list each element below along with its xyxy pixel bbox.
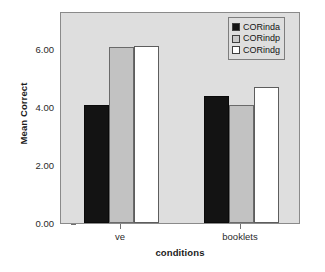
- bar-CORindp-booklets: [229, 105, 254, 223]
- bar-CORinda-booklets: [204, 96, 229, 223]
- bar-CORindg-booklets: [254, 87, 279, 223]
- x-axis-title: conditions: [60, 247, 300, 258]
- bar-CORindg-ve: [134, 46, 159, 223]
- legend-item-CORindg: CORindg: [232, 45, 280, 56]
- bar-chart: Mean Correct 0.002.004.006.00 vebooklets…: [0, 0, 325, 272]
- legend-label: CORindp: [243, 34, 280, 43]
- x-tick-mark: [120, 224, 121, 229]
- x-tick-label: ve: [115, 231, 125, 242]
- legend-item-CORinda: CORinda: [232, 22, 280, 33]
- x-tick-label: booklets: [222, 231, 257, 242]
- legend-swatch-icon: [232, 46, 240, 54]
- y-tick-label: 0.00: [20, 219, 54, 229]
- y-tick-label: 4.00: [20, 103, 54, 113]
- legend: CORindaCORindpCORindg: [228, 17, 285, 60]
- legend-swatch-icon: [232, 23, 240, 31]
- y-tick-mark: [71, 224, 76, 225]
- legend-item-CORindp: CORindp: [232, 33, 280, 44]
- x-tick-mark: [240, 224, 241, 229]
- legend-label: CORindg: [243, 46, 280, 55]
- legend-label: CORinda: [243, 23, 280, 32]
- legend-swatch-icon: [232, 35, 240, 43]
- bar-CORinda-ve: [84, 105, 109, 223]
- bar-CORindp-ve: [109, 47, 134, 223]
- y-tick-label: 6.00: [20, 45, 54, 55]
- y-axis-ticks: 0.002.004.006.00: [16, 0, 54, 272]
- y-tick-label: 2.00: [20, 161, 54, 171]
